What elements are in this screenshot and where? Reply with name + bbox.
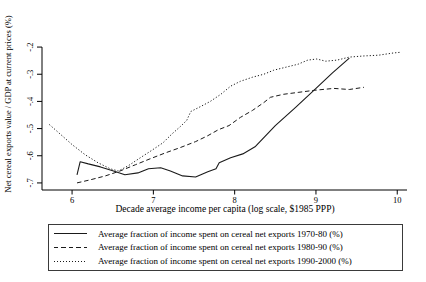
axes-group: 678910-.2-.3-.4-.5-.6-.7 — [25, 42, 407, 205]
dotted-line-key-icon — [54, 261, 87, 262]
y-tick-label: -.2 — [25, 42, 35, 51]
legend-label-1990-2000: Average fraction of income spent on cere… — [98, 255, 352, 267]
series-dashed-line — [77, 87, 364, 183]
y-tick-label: -.6 — [25, 151, 35, 160]
y-tick-label: -.4 — [25, 96, 35, 106]
series-solid-line — [77, 58, 349, 177]
legend-item-1990-2000: Average fraction of income spent on cere… — [49, 255, 402, 267]
legend: Average fraction of income spent on cere… — [48, 224, 403, 271]
legend-label-1970-80: Average fraction of income spent on cere… — [98, 228, 343, 240]
x-axis-title: Decade average income per capita (log sc… — [115, 204, 334, 215]
y-tick-label: -.7 — [25, 178, 35, 187]
y-tick-label: -.5 — [25, 124, 35, 133]
y-tick-label: -.3 — [25, 70, 35, 79]
x-tick-label: 6 — [70, 195, 74, 205]
chart-svg: 678910-.2-.3-.4-.5-.6-.7 Decade average … — [0, 0, 426, 230]
dashed-line-key-icon — [54, 247, 87, 248]
legend-item-1970-80: Average fraction of income spent on cere… — [49, 228, 402, 240]
series-lines-group — [49, 52, 401, 183]
legend-item-1980-90: Average fraction of income spent on cere… — [49, 241, 402, 253]
solid-line-key-icon — [54, 233, 87, 234]
x-tick-label: 10 — [393, 195, 402, 205]
figure-container: 678910-.2-.3-.4-.5-.6-.7 Decade average … — [0, 0, 426, 282]
y-axis-title: Net cereal exports value / GDP at curren… — [3, 15, 13, 193]
legend-label-1980-90: Average fraction of income spent on cere… — [98, 241, 343, 253]
series-dotted-line — [49, 52, 401, 171]
